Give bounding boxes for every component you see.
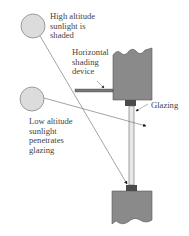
low-sun-label-line: glazing <box>29 146 73 156</box>
bottom-frame <box>126 185 137 191</box>
glazing-label: Glazing <box>151 101 178 111</box>
glazing-pane <box>129 106 134 185</box>
shading-device-label: Horizontal shading device <box>72 48 109 77</box>
high-sun-label: High altitude sunlight is shaded <box>50 12 95 41</box>
low-sun-label: Low altitude sunlight penetrates glazing <box>29 117 73 155</box>
low-sun-icon <box>20 87 44 111</box>
upper-wall <box>113 48 152 100</box>
glazing-leader <box>136 104 148 111</box>
high-sun-icon <box>21 14 45 38</box>
high-sun-label-line: shaded <box>50 31 95 41</box>
lower-wall <box>112 191 152 224</box>
shading-leader <box>97 81 104 88</box>
top-frame <box>125 100 136 106</box>
shading-label-line: device <box>72 67 109 77</box>
shading-device <box>75 89 113 92</box>
